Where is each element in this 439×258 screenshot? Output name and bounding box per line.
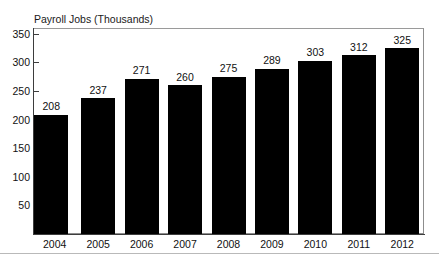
bar: [385, 48, 419, 234]
bar: [212, 77, 246, 234]
bar-series: 208237271260275289303312325: [33, 28, 424, 234]
y-axis-tick-label: 200: [2, 115, 30, 126]
x-axis-tick-label: 2012: [381, 238, 424, 251]
y-axis-tick-label: 100: [2, 172, 30, 183]
bar-value-label: 260: [176, 72, 194, 83]
y-axis-tick-label: 150: [2, 143, 30, 154]
y-axis-tick-label: 300: [2, 57, 30, 68]
x-axis-tick-label: 2008: [207, 238, 250, 251]
x-axis-tick-label: 2010: [294, 238, 337, 251]
bar: [81, 98, 115, 234]
bar: [168, 85, 202, 234]
bar-group: 237: [81, 28, 115, 234]
y-axis-label: Payroll Jobs (Thousands): [34, 13, 153, 25]
x-axis-tick-label: 2005: [76, 238, 119, 251]
y-axis-tick-labels: 50100150200250300350: [0, 0, 30, 258]
x-axis-tick-labels: 200420052006200720082009201020112012: [33, 238, 424, 254]
bar-group: 289: [255, 28, 289, 234]
bar: [342, 55, 376, 234]
y-axis-tick-label: 250: [2, 86, 30, 97]
bar: [125, 79, 159, 234]
x-axis-tick-label: 2004: [33, 238, 76, 251]
bar: [34, 115, 68, 234]
x-axis-tick-label: 2011: [337, 238, 380, 251]
y-axis-tick-label: 350: [2, 29, 30, 40]
bar-group: 208: [34, 28, 68, 234]
bar-group: 271: [125, 28, 159, 234]
bar-value-label: 271: [133, 65, 151, 76]
x-axis-tick-label: 2009: [250, 238, 293, 251]
bar-group: 325: [385, 28, 419, 234]
bar-value-label: 312: [350, 42, 368, 53]
y-axis-tick-label: 50: [2, 200, 30, 211]
bar-group: 260: [168, 28, 202, 234]
bar: [298, 61, 332, 234]
bar-value-label: 303: [307, 47, 325, 58]
footer-rule: [0, 253, 439, 254]
bar-value-label: 325: [394, 35, 412, 46]
bar-group: 275: [212, 28, 246, 234]
x-axis-tick-label: 2006: [120, 238, 163, 251]
bar-group: 312: [342, 28, 376, 234]
x-axis-line: [33, 234, 425, 235]
x-axis-tick-label: 2007: [163, 238, 206, 251]
bar: [255, 69, 289, 234]
bar-value-label: 275: [220, 63, 238, 74]
bar-group: 303: [298, 28, 332, 234]
bar-value-label: 289: [263, 55, 281, 66]
bar-value-label: 237: [89, 85, 107, 96]
bar-value-label: 208: [42, 101, 60, 112]
